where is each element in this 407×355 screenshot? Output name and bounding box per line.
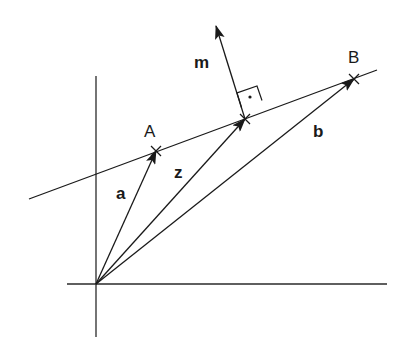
right-angle-marker <box>237 86 262 108</box>
point-z-foot-marker <box>240 114 250 124</box>
vector-b <box>96 79 354 284</box>
point-A-label: A <box>144 122 156 141</box>
point-B-label: B <box>348 48 359 67</box>
vector-a-label: a <box>116 184 126 203</box>
right-angle-dot <box>248 95 251 98</box>
vector-diagram: A B a z b m <box>0 0 407 355</box>
line-AB <box>29 70 377 199</box>
point-B-marker <box>349 74 359 84</box>
vector-z-label: z <box>174 163 183 182</box>
vector-b-label: b <box>313 122 323 141</box>
vector-m-label: m <box>194 53 209 72</box>
